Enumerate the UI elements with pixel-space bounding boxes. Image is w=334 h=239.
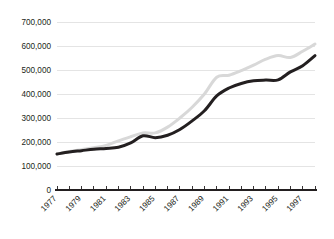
y-axis-tick-label: 200,000 bbox=[21, 138, 51, 147]
y-axis-tick-label: 700,000 bbox=[21, 18, 51, 27]
chart-canvas: 700,000600,000500,000400,000300,000200,0… bbox=[0, 0, 334, 239]
y-axis-tick-label: 500,000 bbox=[21, 66, 51, 75]
y-axis-tick-label: 300,000 bbox=[21, 114, 51, 123]
line-chart: 700,000600,000500,000400,000300,000200,0… bbox=[0, 0, 334, 239]
y-axis-tick-label: 400,000 bbox=[21, 90, 51, 99]
y-axis-tick-label: 100,000 bbox=[21, 162, 51, 171]
y-axis-tick-label: 600,000 bbox=[21, 42, 51, 51]
y-axis-tick-label: 0 bbox=[46, 186, 51, 195]
